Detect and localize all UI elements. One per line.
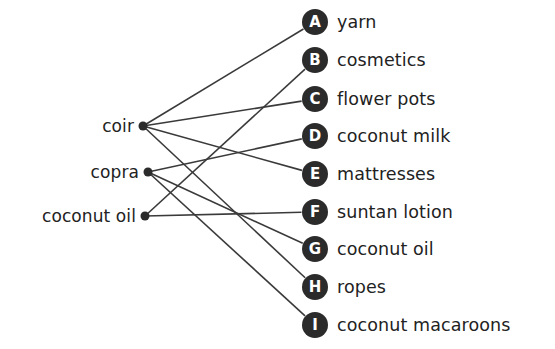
target-label-H: ropes (337, 277, 386, 297)
edge-layer (0, 0, 555, 349)
source-dot-copra[interactable] (144, 168, 153, 177)
edge-copra-to-G (148, 172, 303, 243)
target-badge-E[interactable]: E (302, 161, 328, 187)
edge-coir-to-C (143, 101, 302, 126)
target-node-E[interactable]: Emattresses (302, 161, 435, 187)
target-badge-C[interactable]: C (302, 86, 328, 112)
target-node-H[interactable]: Hropes (302, 274, 386, 300)
target-node-A[interactable]: Ayarn (302, 9, 376, 35)
target-node-B[interactable]: Bcosmetics (302, 47, 426, 73)
target-label-D: coconut milk (337, 126, 450, 146)
edge-copra-to-D (148, 139, 302, 172)
target-label-G: coconut oil (337, 239, 434, 259)
target-badge-I[interactable]: I (302, 312, 328, 338)
source-dot-coir[interactable] (139, 122, 148, 131)
target-node-D[interactable]: Dcoconut milk (302, 123, 450, 149)
target-badge-F[interactable]: F (302, 199, 328, 225)
target-label-C: flower pots (337, 89, 435, 109)
source-dot-coconut_oil[interactable] (141, 212, 150, 221)
target-label-F: suntan lotion (337, 202, 453, 222)
edge-coconut_oil-to-F (145, 212, 302, 216)
target-badge-A[interactable]: A (302, 9, 328, 35)
target-node-C[interactable]: Cflower pots (302, 86, 435, 112)
target-badge-H[interactable]: H (302, 274, 328, 300)
target-node-I[interactable]: Icoconut macaroons (302, 312, 511, 338)
target-badge-D[interactable]: D (302, 123, 328, 149)
edge-coir-to-A (143, 29, 303, 126)
source-label-coir: coir (102, 116, 134, 136)
target-label-I: coconut macaroons (337, 315, 511, 335)
target-label-E: mattresses (337, 164, 435, 184)
target-badge-B[interactable]: B (302, 47, 328, 73)
diagram-canvas: coircopracoconut oil AyarnBcosmeticsCflo… (0, 0, 555, 349)
target-badge-G[interactable]: G (302, 236, 328, 262)
target-node-G[interactable]: Gcoconut oil (302, 236, 434, 262)
source-label-coconut_oil: coconut oil (42, 206, 136, 226)
target-node-F[interactable]: Fsuntan lotion (302, 199, 453, 225)
source-label-copra: copra (91, 162, 139, 182)
target-label-A: yarn (337, 12, 376, 32)
target-label-B: cosmetics (337, 50, 426, 70)
edge-copra-to-I (148, 172, 305, 316)
